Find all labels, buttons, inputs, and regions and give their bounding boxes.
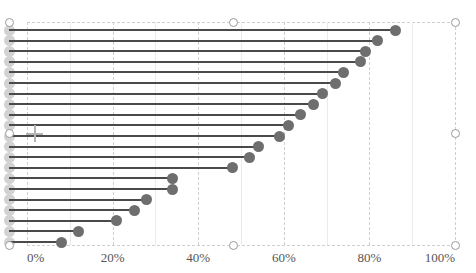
row-value-dot[interactable] (129, 205, 140, 216)
row-stem-line (9, 156, 250, 158)
row-stem-line (9, 114, 301, 116)
row-stem-line (9, 199, 147, 201)
row-stem-line (9, 61, 361, 63)
row-value-dot[interactable] (167, 173, 178, 184)
minor-gridline-90pct (412, 22, 413, 245)
row-stem-line (9, 230, 78, 232)
handle-bottom-left[interactable] (5, 241, 14, 250)
gridline-40pct (198, 22, 199, 245)
row-value-dot[interactable] (167, 184, 178, 195)
handle-top-right[interactable] (451, 18, 460, 27)
x-axis-tick-labels: 0%20%40%60%80%100% (0, 250, 476, 270)
row-stem-line (9, 40, 378, 42)
handle-top-left[interactable] (5, 18, 14, 27)
minor-gridline-70pct (327, 22, 328, 245)
row-value-dot[interactable] (308, 99, 319, 110)
minor-gridline-10pct (70, 22, 71, 245)
row-stem-line (9, 124, 288, 126)
row-stem-line (9, 188, 173, 190)
handle-bottom-right[interactable] (451, 241, 460, 250)
crosshair-cursor (26, 125, 43, 142)
row-value-dot[interactable] (330, 78, 341, 89)
row-stem-line (9, 82, 335, 84)
row-stem-line (9, 177, 173, 179)
row-value-dot[interactable] (317, 88, 328, 99)
minor-gridline-30pct (155, 22, 156, 245)
row-value-dot[interactable] (390, 25, 401, 36)
row-value-dot[interactable] (73, 226, 84, 237)
row-stem-line (9, 103, 314, 105)
row-stem-line (9, 209, 134, 211)
minor-gridline-50pct (241, 22, 242, 245)
row-stem-line (9, 135, 280, 137)
row-value-dot[interactable] (274, 131, 285, 142)
row-value-dot[interactable] (283, 120, 294, 131)
row-stem-line (9, 50, 365, 52)
x-tick-label: 80% (357, 250, 381, 266)
handle-middle-left[interactable] (5, 129, 14, 138)
row-stem-line (9, 241, 61, 243)
row-value-dot[interactable] (56, 237, 67, 248)
row-stem-line (9, 167, 232, 169)
row-value-dot[interactable] (244, 152, 255, 163)
row-stem-line (9, 71, 344, 73)
row-stem-line (9, 93, 322, 95)
x-tick-label: 60% (272, 250, 296, 266)
handle-middle-right[interactable] (451, 129, 460, 138)
x-tick-label: 0% (27, 250, 44, 266)
x-tick-label: 40% (186, 250, 210, 266)
x-tick-label: 20% (101, 250, 125, 266)
gridline-20pct (113, 22, 114, 245)
row-stem-line (9, 220, 117, 222)
lollipop-chart: 0%20%40%60%80%100% (0, 0, 476, 273)
plot-frame-bottom (27, 245, 455, 246)
row-stem-line (9, 29, 395, 31)
row-value-dot[interactable] (360, 46, 371, 57)
plot-area (27, 22, 455, 245)
x-tick-label: 100% (425, 250, 455, 266)
handle-bottom-center[interactable] (229, 241, 238, 250)
row-value-dot[interactable] (253, 141, 264, 152)
gridline-80pct (369, 22, 370, 245)
handle-top-center[interactable] (229, 18, 238, 27)
row-stem-line (9, 146, 258, 148)
